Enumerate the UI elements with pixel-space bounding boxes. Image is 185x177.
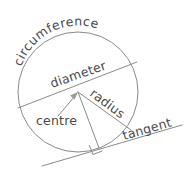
centre-arrowhead	[70, 92, 78, 100]
circle-diagram-figure: circumference diameter radius centre tan…	[0, 0, 185, 177]
label-diameter: diameter	[48, 57, 109, 90]
label-circumference: circumference	[10, 14, 101, 68]
label-tangent: tangent	[121, 115, 174, 143]
label-centre: centre	[36, 113, 77, 128]
diagram-canvas: circumference diameter radius centre tan…	[0, 0, 185, 177]
